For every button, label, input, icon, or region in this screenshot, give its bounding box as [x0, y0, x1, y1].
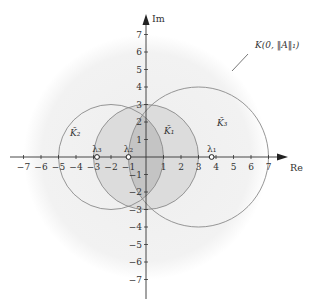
gershgorin-diagram: Re Im −7−6−5−4−3−2−11234567 7654321−1−2−… [0, 0, 315, 306]
y-tick-label: 5 [136, 65, 142, 75]
eigenvalue-label: λ₁ [207, 144, 216, 154]
x-tick-label: −5 [52, 162, 66, 172]
x-tick-label: 6 [248, 162, 254, 172]
y-axis-label: Im [152, 13, 165, 24]
x-tick-label: 4 [213, 162, 219, 172]
y-tick-label: −1 [129, 170, 142, 180]
y-tick-label: −4 [129, 222, 143, 232]
x-tick-label: 2 [178, 162, 184, 172]
eigenvalue-label: λ₃ [92, 144, 102, 154]
x-tick-label: 1 [161, 162, 167, 172]
label-k2: K̃₂ [69, 127, 81, 138]
y-tick-label: −6 [129, 257, 143, 267]
x-tick-label: −6 [34, 162, 48, 172]
big-disc-label: K(0, ‖A‖₁) [254, 40, 300, 51]
y-tick-label: 6 [136, 47, 142, 57]
y-tick-label: 4 [136, 82, 142, 92]
y-tick-label: −7 [129, 275, 143, 285]
big-disc-leader-line [232, 54, 248, 71]
eigenvalue-point [209, 155, 214, 160]
y-tick-label: −2 [129, 187, 142, 197]
y-tick-label: 3 [136, 100, 142, 110]
x-tick-label: −4 [69, 162, 83, 172]
x-tick-label: −7 [17, 162, 31, 172]
y-tick-label: 7 [136, 30, 142, 40]
y-axis-arrow-icon [143, 14, 150, 25]
x-tick-label: −3 [87, 162, 101, 172]
label-k1: K̃₁ [163, 125, 174, 136]
y-tick-label: 1 [136, 135, 142, 145]
x-axis-arrow-icon [277, 154, 288, 161]
eigenvalue-label: λ₂ [124, 144, 134, 154]
x-tick-label: 5 [231, 162, 237, 172]
x-axis-label: Re [290, 162, 303, 173]
eigenvalue-point [95, 155, 100, 160]
label-k3: K̃₃ [216, 117, 228, 128]
y-tick-label: −5 [129, 240, 143, 250]
x-tick-label: −2 [104, 162, 117, 172]
eigenvalue-point [126, 155, 131, 160]
x-tick-label: 7 [266, 162, 272, 172]
y-tick-label: 2 [136, 117, 142, 127]
x-tick-label: 3 [196, 162, 202, 172]
y-tick-label: −3 [129, 205, 143, 215]
